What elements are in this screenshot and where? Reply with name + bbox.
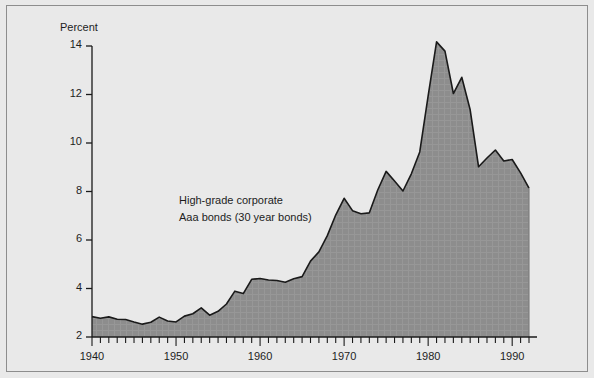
- chart-plot-area: [0, 0, 594, 378]
- chart-figure: Percent 2468101214 194019501960197019801…: [0, 0, 594, 378]
